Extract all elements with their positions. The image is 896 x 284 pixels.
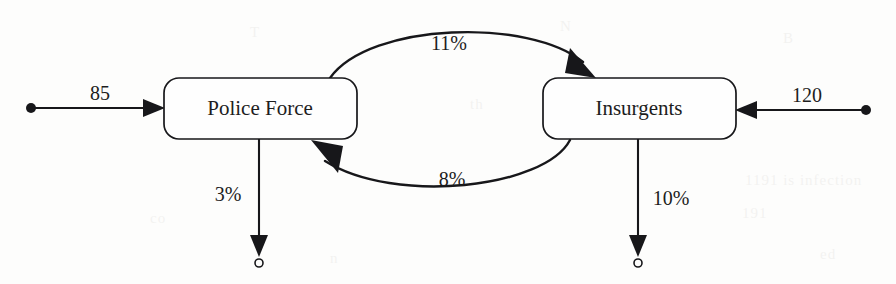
insurgents-to-police-label: 8% (439, 168, 466, 190)
arrowhead-inflow-insurgents (735, 101, 757, 119)
arrowhead-inflow-police (143, 99, 165, 117)
node-police-force[interactable]: Police Force (164, 78, 357, 139)
inflow-police-label: 85 (90, 82, 110, 104)
outflow-police-label: 3% (215, 183, 242, 205)
flow-insurgents-to-police[interactable]: 8% (311, 140, 570, 190)
outflow-insurgents-label: 10% (653, 187, 690, 209)
flow-inflow-police[interactable]: 85 (26, 82, 165, 117)
flow-outflow-police[interactable]: 3% (215, 138, 268, 267)
arrowhead-insurgents-to-police (311, 140, 343, 173)
police-to-insurgents-label: 11% (431, 32, 467, 54)
flow-police-to-insurgents[interactable]: 11% (330, 32, 596, 78)
diagram-page: BNT1191 is infection191thareconed 85 120… (0, 0, 896, 284)
flow-inflow-insurgents[interactable]: 120 (735, 84, 871, 119)
node-insurgents[interactable]: Insurgents (543, 78, 736, 139)
arrowhead-police-to-insurgents (565, 48, 596, 78)
sink-ring-police (255, 259, 263, 267)
sink-ring-insurgents (634, 259, 642, 267)
node-insurgents-label: Insurgents (595, 96, 682, 120)
node-police-force-label: Police Force (207, 96, 313, 120)
arrowhead-outflow-police (250, 235, 268, 257)
flow-diagram-canvas: 85 120 11% 8% 3% (0, 0, 896, 284)
inflow-insurgents-label: 120 (792, 84, 822, 106)
arrowhead-outflow-insurgents (629, 235, 647, 257)
flow-outflow-insurgents[interactable]: 10% (629, 138, 689, 267)
